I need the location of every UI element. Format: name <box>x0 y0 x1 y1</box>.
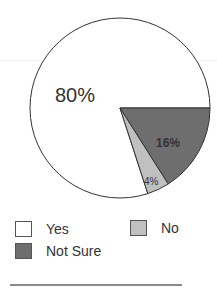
legend-swatch-yes <box>15 221 32 237</box>
label-yes: 80% <box>55 84 95 106</box>
legend-swatch-not-sure <box>15 243 32 259</box>
label-not-sure: 16% <box>156 136 180 150</box>
legend-label-not-sure: Not Sure <box>46 243 101 259</box>
label-no: 4% <box>144 176 159 187</box>
legend-item-not-sure: Not Sure <box>15 243 101 259</box>
legend-item-no: No <box>130 220 179 236</box>
pie-chart: 80% 16% 4% <box>0 0 217 215</box>
divider-line <box>10 284 182 286</box>
legend-item-yes: Yes <box>15 221 69 237</box>
legend-swatch-no <box>130 220 147 236</box>
legend-label-yes: Yes <box>46 221 69 237</box>
legend-label-no: No <box>161 220 179 236</box>
